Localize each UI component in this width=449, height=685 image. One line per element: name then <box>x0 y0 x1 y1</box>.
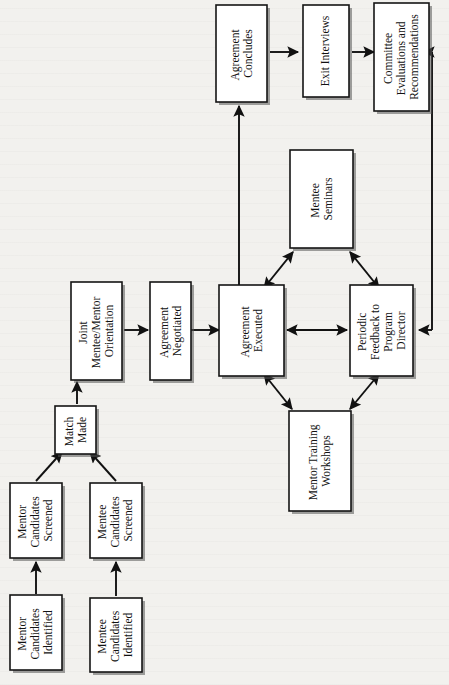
node-label-line: Match <box>62 417 74 447</box>
edge-seminars-to-feedback <box>350 252 379 288</box>
edge-workshops-to-feedback <box>350 374 379 409</box>
node-label-line: Workshops <box>320 435 333 487</box>
node-label-line: Candidates <box>109 496 121 548</box>
node-joint-orientation[interactable]: Joint Mentee/Mentor Orientation <box>71 282 125 383</box>
svg-text:Agreement Concludes: Agreement Concludes <box>228 27 253 81</box>
node-label-line: Made <box>75 417 87 443</box>
node-agreement-concludes[interactable]: Agreement Concludes <box>216 5 270 105</box>
node-exit-interviews[interactable]: Exit Interviews <box>303 5 352 100</box>
flowchart-page: Agreement Concludes Exit Interviews Comm… <box>0 0 449 685</box>
svg-text:Match Made: Match Made <box>62 414 87 446</box>
node-mentor-training-workshops[interactable]: Mentor Training Workshops <box>289 411 354 514</box>
node-agreement-negotiated[interactable]: Agreement Negotiated <box>150 282 194 383</box>
node-mentee-seminars[interactable]: Mentee Seminars <box>290 150 356 251</box>
node-label-line: Orientation <box>102 305 114 358</box>
node-label-line: Evaluations and <box>394 21 406 95</box>
node-label-line: Mentee <box>308 183 320 217</box>
node-mentor-candidates-screened[interactable]: Mentor Candidates Screened <box>10 483 65 561</box>
node-committee-evaluations[interactable]: Committee Evaluations and Recommendation… <box>374 3 432 114</box>
node-label-line: Agreement <box>157 306 170 358</box>
node-label-line: Mentee <box>96 505 108 539</box>
node-label-line: Recommendations <box>407 14 419 100</box>
svg-text:Agreement Negotiated: Agreement Negotiated <box>157 304 183 358</box>
node-label-line: Exit Interviews <box>319 15 331 86</box>
node-match-made[interactable]: Match Made <box>55 406 99 457</box>
node-label-line: Mentor <box>16 617 28 651</box>
node-mentor-candidates-identified[interactable]: Mentor Candidates Identified <box>10 595 65 673</box>
node-label-line: Concludes <box>241 29 253 78</box>
node-periodic-feedback[interactable]: Periodic Feedback to Program Director <box>350 285 416 379</box>
svg-text:Agreement Executed: Agreement Executed <box>238 304 263 358</box>
node-label-line: Joint <box>76 320 88 343</box>
node-label-line: Mentee <box>96 619 108 653</box>
node-mentee-candidates-identified[interactable]: Mentee Candidates Identified <box>90 598 145 675</box>
node-label-line: Program <box>381 312 394 352</box>
node-label-line: Agreement <box>238 306 251 358</box>
node-label-line: Screened <box>122 499 134 541</box>
flowchart-diagram: Agreement Concludes Exit Interviews Comm… <box>0 0 449 685</box>
node-label-line: Identified <box>122 612 134 657</box>
node-label-line: Candidates <box>29 608 41 660</box>
node-label-line: Feedback to <box>368 304 380 360</box>
node-label-line: Periodic <box>355 313 367 351</box>
node-label-line: Mentor <box>16 505 28 539</box>
node-label-line: Committee <box>381 33 393 84</box>
node-label-line: Identified <box>42 610 54 655</box>
node-agreement-executed[interactable]: Agreement Executed <box>219 285 287 379</box>
svg-text:Mentee Seminars: Mentee Seminars <box>308 177 333 220</box>
node-label-line: Seminars <box>321 177 333 220</box>
svg-text:Exit Interviews: Exit Interviews <box>319 15 331 86</box>
node-label-line: Mentee/Mentor <box>89 297 101 369</box>
node-label-line: Agreement <box>228 29 241 81</box>
node-label-line: Director <box>394 311 406 349</box>
node-label-line: Candidates <box>109 610 121 662</box>
node-label-line: Candidates <box>29 496 41 548</box>
node-mentee-candidates-screened[interactable]: Mentee Candidates Screened <box>90 483 145 561</box>
node-label-line: Negotiated <box>170 306 183 357</box>
node-label-line: Executed <box>251 309 263 352</box>
edge-executed-to-workshops <box>264 374 292 409</box>
nodes-layer: Agreement Concludes Exit Interviews Comm… <box>10 3 432 675</box>
edge-executed-to-seminars <box>264 252 293 288</box>
node-label-line: Screened <box>42 499 54 541</box>
node-label-line: Mentor Training <box>307 424 320 500</box>
